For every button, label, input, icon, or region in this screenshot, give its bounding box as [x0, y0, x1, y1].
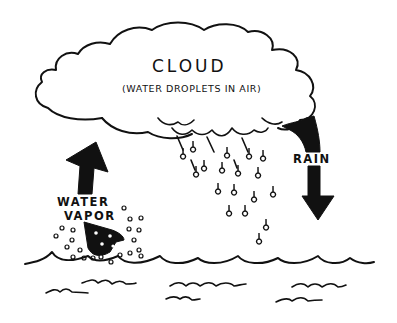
- water-cycle-diagram: CLOUD (WATER DROPLETS IN AIR): [0, 0, 397, 323]
- rain-drops: [177, 136, 276, 244]
- cloud: CLOUD (WATER DROPLETS IN AIR): [36, 23, 315, 139]
- rain-streaks: [177, 136, 248, 170]
- rain-arrow: RAIN: [282, 116, 334, 220]
- evaporation-arrow: WATER VAPOR: [57, 142, 116, 223]
- vapor-wedge: [84, 222, 124, 255]
- rain-arrow-upper-band: [282, 116, 320, 152]
- cloud-lower-edge: [102, 118, 192, 138]
- water-vapor-label-line2: VAPOR: [64, 209, 116, 223]
- rain-label: RAIN: [293, 152, 331, 166]
- cloud-title: CLOUD: [152, 56, 227, 76]
- cloud-subtitle: (WATER DROPLETS IN AIR): [122, 83, 261, 94]
- water-surface: [25, 252, 374, 264]
- raindrop-icons: [181, 141, 276, 244]
- water-body: [25, 252, 374, 302]
- water-vapor-label-line1: WATER: [57, 195, 109, 209]
- cloud-fringe-right: [262, 118, 282, 124]
- vapor-arrow-up-icon: [66, 142, 108, 194]
- cloud-fringe-upper: [158, 118, 194, 125]
- cloud-outline: [36, 23, 315, 130]
- cloud-fringe-middle: [172, 128, 268, 136]
- rain-arrow-down-icon: [302, 166, 334, 220]
- water-ripples: [46, 280, 346, 302]
